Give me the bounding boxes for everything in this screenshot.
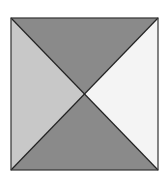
square-diagram [0,0,168,182]
